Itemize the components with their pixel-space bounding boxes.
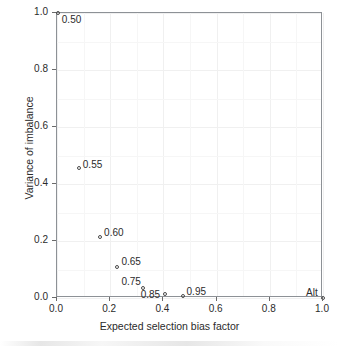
x-axis-tick-label: 0.2	[89, 303, 129, 314]
gridline-horizontal	[57, 241, 321, 242]
x-axis-tick	[162, 297, 163, 301]
gridline-vertical-minor	[243, 13, 244, 296]
data-point-label: 0.65	[121, 257, 140, 267]
y-axis-tick	[52, 240, 56, 241]
gridline-horizontal	[57, 298, 321, 299]
data-point	[77, 166, 81, 170]
gridline-vertical-minor	[296, 13, 297, 296]
y-axis-tick-label: 1.0	[10, 6, 48, 17]
gridline-vertical-minor	[84, 13, 85, 296]
x-axis-tick-label: 0.8	[249, 303, 289, 314]
gridline-horizontal-minor	[57, 156, 321, 157]
x-axis-tick-label: 0.4	[142, 303, 182, 314]
gridline-horizontal-minor	[57, 99, 321, 100]
x-axis-label: Expected selection bias factor	[0, 320, 339, 332]
gridline-vertical	[163, 13, 164, 296]
gridline-horizontal-minor	[57, 213, 321, 214]
data-point	[98, 235, 102, 239]
data-point	[56, 11, 60, 15]
scan-artifact	[0, 341, 339, 346]
x-axis-tick-label: 0.0	[36, 303, 76, 314]
data-point-label: 0.50	[62, 15, 81, 25]
data-point-label: 0.75	[121, 277, 140, 287]
gridline-vertical	[217, 13, 218, 296]
data-point	[163, 292, 167, 296]
data-point-label: 0.95	[187, 287, 206, 297]
data-point-label: 0.60	[104, 228, 123, 238]
x-axis-tick-label: 1.0	[302, 303, 339, 314]
gridline-horizontal	[57, 127, 321, 128]
gridline-vertical	[323, 13, 324, 296]
y-axis-tick	[52, 297, 56, 298]
data-point-label: 0.85	[141, 290, 160, 300]
y-axis-tick	[52, 69, 56, 70]
x-axis-tick	[109, 297, 110, 301]
x-axis-tick	[322, 297, 323, 301]
data-point-label: Alt	[306, 288, 318, 298]
gridline-horizontal-minor	[57, 270, 321, 271]
x-axis-tick	[56, 297, 57, 301]
y-axis-tick	[52, 126, 56, 127]
scatter-chart-figure: 0.500.550.600.650.750.850.95Alt 0.00.20.…	[0, 0, 339, 349]
gridline-horizontal	[57, 70, 321, 71]
y-axis-tick	[52, 183, 56, 184]
gridline-horizontal	[57, 13, 321, 14]
gridline-horizontal	[57, 184, 321, 185]
gridline-vertical	[57, 13, 58, 296]
data-point-label: 0.55	[83, 160, 102, 170]
x-axis-tick-label: 0.6	[196, 303, 236, 314]
y-axis-label: Variance of imbalance	[23, 58, 35, 238]
gridline-vertical-minor	[190, 13, 191, 296]
x-axis-tick	[269, 297, 270, 301]
gridline-vertical-minor	[137, 13, 138, 296]
data-point	[181, 294, 185, 298]
gridline-horizontal-minor	[57, 42, 321, 43]
gridline-vertical	[270, 13, 271, 296]
y-axis-tick	[52, 12, 56, 13]
y-axis-tick-label: 0.0	[10, 291, 48, 302]
plot-area: 0.500.550.600.650.750.850.95Alt	[56, 12, 322, 297]
gridline-vertical	[110, 13, 111, 296]
x-axis-tick	[216, 297, 217, 301]
